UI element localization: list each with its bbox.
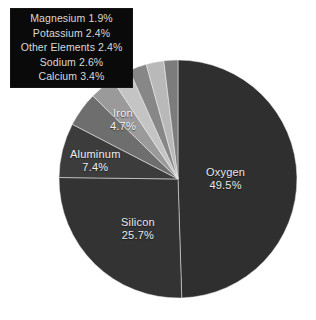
slice-label-silicon: Silicon 25.7%: [121, 216, 155, 242]
legend-row: Calcium 3.4%: [39, 69, 105, 84]
slice-label-silicon-pct: 25.7%: [121, 229, 155, 242]
slice-label-aluminum-pct: 7.4%: [70, 161, 121, 174]
slice-label-iron: Iron 4.7%: [110, 107, 136, 133]
legend-row: Potassium 2.4%: [33, 26, 110, 41]
slice-label-aluminum: Aluminum 7.4%: [70, 148, 121, 174]
slice-label-oxygen-name: Oxygen: [206, 166, 245, 178]
slice-label-iron-name: Iron: [113, 107, 133, 119]
slice-label-silicon-name: Silicon: [121, 216, 155, 228]
slice-label-aluminum-name: Aluminum: [70, 148, 121, 160]
legend-row: Sodium 2.6%: [40, 55, 104, 70]
legend-row: Other Elements 2.4%: [21, 40, 123, 55]
figure-caption: [0, 311, 316, 320]
pie-slices-group: [59, 60, 297, 298]
legend-row: Magnesium 1.9%: [30, 11, 113, 26]
pie-chart-figure: Oxygen 49.5% Silicon 25.7% Aluminum 7.4%…: [0, 0, 316, 320]
slice-label-oxygen: Oxygen 49.5%: [206, 166, 245, 192]
slice-label-iron-pct: 4.7%: [110, 120, 136, 133]
slice-label-oxygen-pct: 49.5%: [206, 179, 245, 192]
legend: Magnesium 1.9%Potassium 2.4%Other Elemen…: [10, 8, 133, 88]
